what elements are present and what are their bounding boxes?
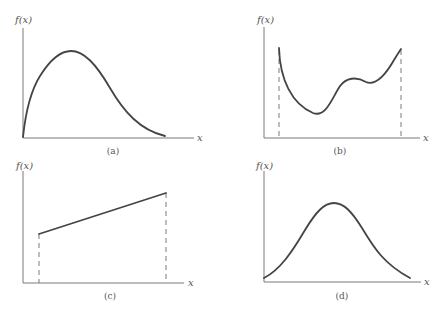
panel-d-xlabel: x	[424, 276, 430, 287]
panel-c-ylabel: f(x)	[15, 160, 33, 171]
panel-a-xlabel: x	[197, 132, 203, 143]
panel-a-caption: (a)	[107, 146, 119, 156]
panel-a: f(x) x (a)	[14, 14, 203, 156]
panel-c-caption: (c)	[104, 291, 116, 301]
panel-d: f(x) x (d)	[255, 160, 430, 301]
panel-a-curve	[23, 51, 165, 137]
panel-b-curve	[279, 48, 401, 114]
panel-b-xlabel: x	[423, 132, 429, 143]
panel-d-caption: (d)	[336, 291, 349, 301]
panel-a-ylabel: f(x)	[14, 14, 32, 25]
figure: f(x) x (a) f(x) x (b) f(x) x (c) f(x) x …	[0, 0, 444, 311]
panel-b: f(x) x (b)	[256, 14, 429, 156]
panel-d-curve	[264, 203, 410, 278]
panel-b-caption: (b)	[334, 146, 347, 156]
panel-b-ylabel: f(x)	[256, 14, 274, 25]
panel-c-line	[39, 193, 166, 234]
panel-c: f(x) x (c)	[15, 160, 194, 301]
panel-d-ylabel: f(x)	[255, 160, 273, 171]
panel-c-xlabel: x	[188, 277, 194, 288]
